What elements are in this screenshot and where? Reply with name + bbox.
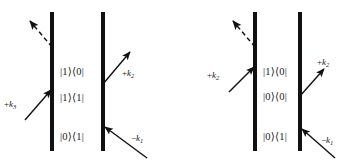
k-subscript: 2 (131, 72, 134, 79)
state-label-top: |1⟩⟨0| (263, 67, 287, 78)
k-subscript: 2 (216, 74, 219, 81)
wavevector-label-k1-incoming: −k1 (321, 136, 333, 145)
right-feynman-diagram: |1⟩⟨0| |0⟩⟨0| |0⟩⟨1| +k2 +k2 −k1 (177, 0, 354, 164)
state-label-bottom: |0⟩⟨1| (263, 132, 287, 143)
wavevector-label-k1-incoming: −k1 (131, 134, 143, 143)
outgoing-arrow-k2 (300, 69, 324, 96)
state-label-middle: |0⟩⟨0| (263, 92, 287, 103)
wavevector-label-k2-outgoing: +k2 (317, 58, 329, 67)
k-subscript: 2 (326, 61, 329, 68)
state-label-top: |1⟩⟨0| (60, 67, 84, 78)
k-subscript: 3 (13, 103, 16, 110)
incoming-arrow-k2 (229, 67, 254, 92)
emission-arrow-dashed (30, 21, 52, 47)
state-label-middle: |1⟩⟨1| (60, 93, 84, 104)
feynman-diagram-figure: |1⟩⟨0| |1⟩⟨1| |0⟩⟨1| +k3 +k2 −k1 (0, 0, 354, 164)
left-interaction-arrows (25, 21, 147, 158)
wavevector-label-k3-incoming: +k3 (4, 100, 16, 109)
left-feynman-diagram: |1⟩⟨0| |1⟩⟨1| |0⟩⟨1| +k3 +k2 −k1 (0, 0, 177, 164)
emission-arrow-dashed (233, 21, 255, 47)
k-subscript: 1 (140, 137, 143, 144)
state-label-bottom: |0⟩⟨1| (60, 132, 84, 143)
left-diagram-canvas (0, 0, 177, 164)
incoming-arrow-k3 (25, 90, 51, 120)
wavevector-label-k2-outgoing: +k2 (122, 69, 134, 78)
wavevector-label-k2-incoming: +k2 (207, 71, 219, 80)
k-subscript: 1 (330, 139, 333, 146)
